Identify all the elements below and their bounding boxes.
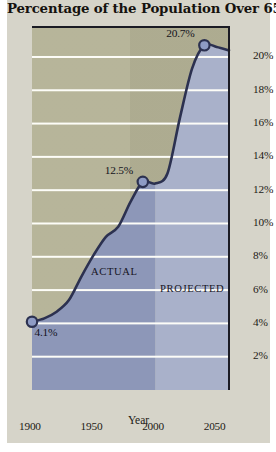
- y-tick-label: 12%: [253, 183, 273, 195]
- gridline: [32, 322, 229, 324]
- y-tick-label: 14%: [253, 149, 273, 161]
- gridline: [32, 256, 229, 258]
- y-tick-label: 6%: [253, 283, 268, 295]
- chart-title: Percentage of the Population Over 65: [7, 1, 270, 16]
- region-label-actual: ACTUAL: [91, 266, 138, 277]
- gridline: [32, 56, 229, 58]
- y-tick-label: 10%: [253, 216, 273, 228]
- y-axis-line: [228, 26, 230, 390]
- region-label-projected: PROJECTED: [160, 283, 224, 294]
- y-tick-label: 20%: [253, 49, 273, 61]
- gridline: [32, 156, 229, 158]
- y-tick-label: 2%: [253, 349, 268, 361]
- y-tick-label: 8%: [253, 249, 268, 261]
- gridline: [32, 89, 229, 91]
- data-point-marker: [199, 40, 209, 50]
- gridline: [32, 123, 229, 125]
- gridline: [32, 356, 229, 358]
- y-tick-label: 16%: [253, 116, 273, 128]
- annotation-20-7-percent: 20.7%: [166, 27, 194, 39]
- plot-area: ACTUAL PROJECTED 4.1% 12.5% 20.7% 2%4%6%…: [25, 27, 229, 390]
- y-tick-label: 4%: [253, 316, 268, 328]
- annotation-4-1-percent: 4.1%: [34, 326, 57, 338]
- y-tick-label: 18%: [253, 83, 273, 95]
- annotation-12-5-percent: 12.5%: [105, 164, 133, 176]
- data-point-marker: [138, 177, 148, 187]
- plot-top-rule: [32, 26, 229, 28]
- chart-figure: Percentage of the Population Over 65 ACT…: [0, 0, 276, 452]
- gridline: [32, 189, 229, 191]
- gridline: [32, 222, 229, 224]
- x-axis-title: Year: [7, 414, 270, 426]
